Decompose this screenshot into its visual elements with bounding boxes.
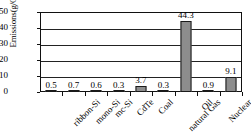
bar-value-label: 3.7 <box>135 76 146 85</box>
bar-value-label: 0.3 <box>113 81 124 90</box>
bar-value-label: 0.6 <box>90 81 101 90</box>
bar-slot: 0.5 <box>40 12 62 92</box>
bar <box>203 90 214 92</box>
y-tick-label: 50 <box>0 7 8 16</box>
y-axis-title: Emissions(g/GW·h) <box>8 0 18 58</box>
x-tick-mark <box>130 92 131 96</box>
x-tick-mark <box>107 92 108 96</box>
x-tick-mark <box>242 92 243 96</box>
bar <box>46 90 57 92</box>
bar <box>91 90 102 92</box>
bar-value-label: 9.1 <box>225 67 236 76</box>
y-tick-label: 0 <box>0 87 8 96</box>
bar <box>113 90 124 92</box>
x-axis-label: Nuclear <box>227 97 251 124</box>
bar-value-label: 44.3 <box>178 11 194 20</box>
bar <box>225 77 236 92</box>
bar-slot: 0.9 <box>197 12 219 92</box>
bar-value-label: 0.7 <box>68 81 79 90</box>
bar-slot: 9.1 <box>220 12 242 92</box>
y-tick-label: 20 <box>0 55 8 64</box>
x-axis-label: CdTe <box>134 97 155 118</box>
x-tick-mark <box>175 92 176 96</box>
y-tick-label: 40 <box>0 23 8 32</box>
y-tick-label: 30 <box>0 39 8 48</box>
bar <box>135 86 146 92</box>
bar <box>158 90 169 92</box>
x-tick-mark <box>220 92 221 96</box>
bar-slot: 0.6 <box>85 12 107 92</box>
bar <box>180 21 191 92</box>
bar <box>68 90 79 92</box>
x-axis-label: Coal <box>156 97 175 116</box>
bar-slot: 3.7 <box>130 12 152 92</box>
bar-slot: 44.3 <box>175 12 197 92</box>
bar-value-label: 0.3 <box>158 81 169 90</box>
x-tick-mark <box>62 92 63 96</box>
bar-slot: 0.3 <box>152 12 174 92</box>
bar-slot: 0.7 <box>62 12 84 92</box>
bar-value-label: 0.9 <box>203 81 214 90</box>
bar-slot: 0.3 <box>107 12 129 92</box>
y-tick-label: 10 <box>0 71 8 80</box>
y-tick-mark <box>37 92 40 93</box>
x-tick-mark <box>152 92 153 96</box>
bar-value-label: 0.5 <box>46 81 57 90</box>
x-tick-mark <box>197 92 198 96</box>
x-tick-mark <box>85 92 86 96</box>
bars-layer: 0.50.70.60.33.70.344.30.99.1 <box>40 12 242 92</box>
emissions-bar-chart: Emissions(g/GW·h) 01020304050 0.50.70.60… <box>0 0 251 139</box>
